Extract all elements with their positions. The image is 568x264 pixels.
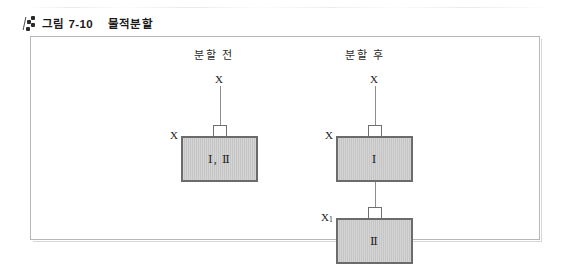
frame-shadow-right <box>541 39 542 242</box>
after-subsidiary-entity-label: Ⅱ <box>370 234 379 248</box>
after-parent-side-owner-label: X <box>325 130 333 141</box>
icon-bead <box>31 23 35 27</box>
before-ownership-line <box>220 86 221 125</box>
beaded-diagonal-icon <box>24 16 37 31</box>
before-top-owner-label: X <box>215 74 223 85</box>
after-subsidiary-connector-tab <box>368 207 382 218</box>
after-parent-connector-tab <box>368 125 382 136</box>
after-parent-entity-label: Ⅰ <box>372 152 378 166</box>
figure-title: 물적분할 <box>108 14 153 34</box>
after-top-owner-label: X <box>370 74 378 85</box>
column-heading-before: 분할 전 <box>194 46 233 62</box>
before-connector-tab <box>213 125 227 136</box>
after-parent-entity-box: Ⅰ <box>336 136 413 182</box>
owner-subscript: 1 <box>329 215 333 224</box>
figure-number: 그림 7-10 <box>42 14 93 34</box>
column-heading-after: 분할 후 <box>345 46 384 62</box>
after-subsidiary-entity-box: Ⅱ <box>336 218 413 264</box>
before-entity-box: Ⅰ, Ⅱ <box>181 136 258 182</box>
scan-streak <box>30 7 550 8</box>
parent-subsidiary-link-line <box>375 182 376 207</box>
before-side-owner-label: X <box>170 130 178 141</box>
after-subsidiary-side-owner-label: X1 <box>321 212 333 224</box>
icon-bead <box>31 16 35 20</box>
scan-noise-band <box>0 0 568 14</box>
icon-bead <box>26 27 30 31</box>
frame-shadow-bottom <box>33 241 542 242</box>
division-diagram: 분할 전 분할 후 X X Ⅰ, Ⅱ X X Ⅰ X1 Ⅱ <box>30 36 540 240</box>
figure-caption-bar: 그림 7-10 물적분할 <box>0 14 568 34</box>
before-entity-label: Ⅰ, Ⅱ <box>208 152 231 166</box>
owner-base: X <box>321 211 329 223</box>
after-ownership-line <box>375 86 376 125</box>
